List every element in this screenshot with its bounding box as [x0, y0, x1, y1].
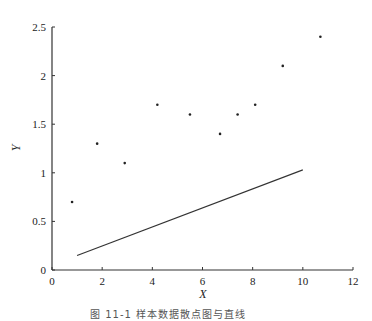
- data-point: [319, 35, 322, 38]
- data-point: [189, 113, 192, 116]
- data-point: [71, 201, 74, 204]
- data-points: [71, 35, 322, 203]
- data-point: [219, 133, 222, 136]
- ticks: 02468101200.511.522.5: [32, 21, 358, 287]
- x-tick-label: 8: [250, 275, 256, 287]
- data-point: [123, 162, 126, 165]
- axes: [52, 27, 353, 270]
- y-tick-label: 1.5: [32, 118, 46, 130]
- x-tick-label: 12: [348, 275, 359, 287]
- data-point: [281, 65, 284, 68]
- y-tick-label: 0.5: [32, 215, 46, 227]
- y-tick-label: 1: [41, 167, 47, 179]
- x-axis-title: X: [198, 287, 207, 301]
- regression-line: [77, 170, 303, 256]
- fitted-line: [77, 170, 303, 256]
- y-axis-title: Y: [9, 143, 23, 151]
- data-point: [236, 113, 239, 116]
- x-tick-label: 2: [99, 275, 105, 287]
- x-tick-label: 0: [49, 275, 55, 287]
- data-point: [156, 103, 159, 106]
- y-tick-label: 2: [41, 70, 47, 82]
- x-tick-label: 10: [297, 275, 309, 287]
- figure-caption: 图 11-1 样本数据散点图与直线: [90, 306, 246, 321]
- y-tick-label: 2.5: [32, 21, 46, 33]
- x-tick-label: 6: [200, 275, 206, 287]
- x-tick-label: 4: [150, 275, 156, 287]
- y-tick-label: 0: [41, 264, 47, 276]
- data-point: [254, 103, 257, 106]
- data-point: [96, 142, 99, 145]
